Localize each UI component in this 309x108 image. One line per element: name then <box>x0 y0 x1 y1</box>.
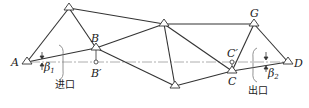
label-g: G <box>250 7 259 20</box>
label-beta1: β1 <box>43 61 55 75</box>
label-a: A <box>10 56 19 69</box>
point-c-prime-icon <box>230 60 234 64</box>
label-exit: 出口 <box>248 84 268 96</box>
triangulation-diagram: A B B′ C′ C G D β1 β2 进口 出口 <box>0 0 309 108</box>
label-beta2: β2 <box>267 67 279 81</box>
point-b-prime-icon <box>94 60 98 64</box>
network-edges <box>27 8 288 86</box>
label-c: C <box>228 75 237 88</box>
label-b-prime: B′ <box>90 67 102 80</box>
exit-bracket <box>253 48 257 82</box>
label-b: B <box>90 32 99 45</box>
station-c-icon <box>227 66 237 73</box>
label-c-prime: C′ <box>227 47 238 60</box>
station-g-icon <box>249 19 259 26</box>
entrance-bracket <box>59 45 63 80</box>
station-p2-icon <box>159 19 169 26</box>
station-p1-icon <box>64 3 74 10</box>
label-entrance: 进口 <box>55 79 75 90</box>
label-d: D <box>293 57 303 70</box>
